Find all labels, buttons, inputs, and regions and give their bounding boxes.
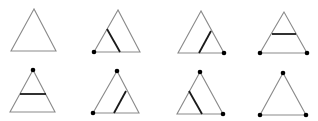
triangle-outline bbox=[11, 9, 56, 51]
vertex-dot-apex bbox=[281, 71, 286, 76]
vertex-dot-right bbox=[222, 51, 227, 56]
vertex-dot-right bbox=[305, 51, 310, 56]
vertex-dot-apex bbox=[198, 70, 203, 75]
triangle-grid-figure bbox=[0, 0, 318, 121]
vertex-dot-right bbox=[304, 113, 309, 118]
triangle-3 bbox=[178, 11, 226, 55]
triangle-5 bbox=[10, 68, 55, 112]
vertex-dot-apex bbox=[115, 69, 120, 74]
vertex-dot-apex bbox=[31, 68, 36, 73]
vertex-dot-left bbox=[91, 111, 96, 116]
triangle-1 bbox=[11, 9, 56, 51]
triangle-outline bbox=[260, 73, 306, 115]
triangle-outline bbox=[10, 70, 55, 112]
cut-line bbox=[114, 91, 126, 113]
vertex-dot-left bbox=[92, 50, 97, 55]
triangle-4 bbox=[258, 12, 310, 55]
triangle-outline bbox=[93, 71, 139, 113]
triangle-outline bbox=[178, 11, 224, 53]
triangle-8 bbox=[258, 71, 309, 118]
vertex-dot-left bbox=[258, 51, 263, 56]
triangle-outline bbox=[260, 12, 307, 53]
cut-line bbox=[107, 29, 120, 52]
vertex-dot-right bbox=[221, 112, 226, 117]
triangle-6 bbox=[91, 69, 139, 116]
vertex-dot-left bbox=[258, 113, 263, 118]
triangle-2 bbox=[92, 10, 140, 54]
cut-line bbox=[199, 31, 211, 53]
triangle-7 bbox=[177, 70, 225, 117]
triangle-outline bbox=[177, 72, 223, 114]
cut-line bbox=[189, 91, 202, 114]
